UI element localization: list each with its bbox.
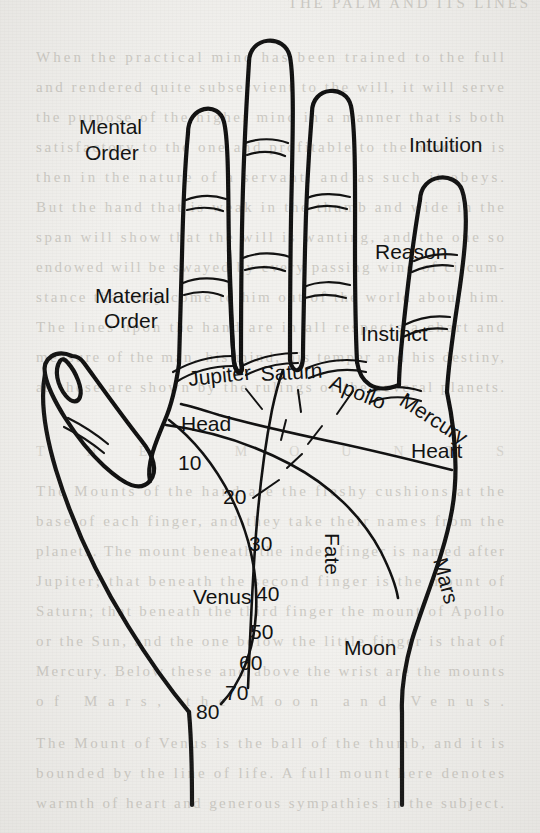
label-line-heart: Heart xyxy=(411,439,463,462)
svg-text:warmth of heart and genero: warmth of heart and generous sympathies … xyxy=(36,795,504,811)
label-mount-moon: Moon xyxy=(344,636,397,659)
label-material-order-line2: Order xyxy=(104,309,158,332)
label-reason: Reason xyxy=(375,240,447,263)
life-age-70: 70 xyxy=(225,681,248,704)
label-line-head: Head xyxy=(181,412,231,435)
label-mental-order-line2: Order xyxy=(85,141,139,164)
palmistry-figure: .ink{fill:none;stroke:#111;stroke-lineca… xyxy=(0,0,540,833)
label-intuition: Intuition xyxy=(409,133,483,156)
life-age-10: 10 xyxy=(178,451,201,474)
label-mount-venus: Venus xyxy=(193,585,251,608)
label-instinct: Instinct xyxy=(361,322,428,345)
label-mount-saturn: Saturn xyxy=(260,359,323,385)
svg-text:But the hand that is weak: But the hand that is weak in the thumb a… xyxy=(36,199,504,215)
life-age-60: 60 xyxy=(239,651,262,674)
life-age-40: 40 xyxy=(256,582,279,605)
hand-diagram-svg: .ink{fill:none;stroke:#111;stroke-lineca… xyxy=(0,0,540,833)
svg-text:Mercury. Below these and a: Mercury. Below these and above the wrist… xyxy=(36,663,504,679)
life-age-20: 20 xyxy=(223,485,246,508)
life-age-30: 30 xyxy=(249,532,272,555)
label-material-order-line1: Material xyxy=(95,284,170,307)
life-age-50: 50 xyxy=(250,620,273,643)
label-mental-order-line1: Mental xyxy=(79,115,142,138)
life-age-80: 80 xyxy=(196,700,219,723)
label-line-fate: Fate xyxy=(321,533,344,575)
